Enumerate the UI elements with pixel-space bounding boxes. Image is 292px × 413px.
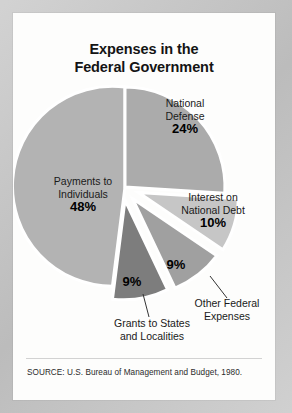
pie-label-defense-percent: 24% [143, 123, 227, 136]
pie-label-interest-name-1: Interest on [161, 191, 265, 204]
page-title-line-2: Federal Government [13, 58, 275, 76]
chart-card-inner: Expenses in the Federal Government [13, 13, 275, 400]
pie-label-other-federal-expenses-percent-wrap: 9% [161, 258, 191, 272]
pie-label-interest-percent: 10% [161, 217, 265, 230]
pie-chart: Payments to Individuals 48% National Def… [13, 79, 275, 344]
pie-label-grants-percent: 9% [117, 276, 147, 289]
source-note: SOURCE: U.S. Bureau of Management and Bu… [27, 368, 267, 377]
pie-label-grants-name-1: Grants to States [87, 317, 217, 330]
pie-label-payments-name-1: Payments to [31, 175, 135, 188]
pie-label-other-name-1: Other Federal [181, 297, 273, 310]
leader-line-other-federal-expenses [210, 276, 227, 298]
page-title: Expenses in the Federal Government [13, 40, 275, 76]
pie-label-defense-name-1: National [143, 97, 227, 110]
chart-card: Expenses in the Federal Government [13, 13, 275, 400]
page-title-line-1: Expenses in the [13, 40, 275, 58]
source-divider [26, 358, 262, 359]
pie-label-grants-to-states-name: Grants to States and Localities [87, 317, 217, 342]
pie-label-payments-percent: 48% [31, 201, 135, 214]
pie-label-grants-percent-wrap: 9% [117, 275, 147, 289]
pie-label-interest-on-national-debt: Interest on National Debt 10% [161, 191, 265, 230]
pie-label-other-percent: 9% [161, 259, 191, 272]
pie-label-payments-to-individuals: Payments to Individuals 48% [31, 175, 135, 214]
pie-label-grants-name-2: and Localities [87, 330, 217, 343]
pie-label-national-defense: National Defense 24% [143, 97, 227, 136]
